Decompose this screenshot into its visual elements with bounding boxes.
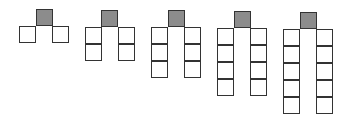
left-column-square [217,79,234,96]
left-column-square [283,29,300,46]
right-column-square [118,27,135,44]
right-column-square [250,45,267,62]
right-column-square [250,28,267,45]
left-column-square [85,44,102,61]
right-column-square [316,63,333,80]
shaded-square [101,10,118,27]
pattern-sequence-diagram [0,0,349,120]
left-column-square [283,46,300,63]
left-column-square [19,26,36,43]
right-column-square [52,26,69,43]
left-column-square [217,28,234,45]
right-column-square [316,29,333,46]
right-column-square [316,97,333,114]
right-column-square [184,27,201,44]
shaded-square [234,11,251,28]
right-column-square [250,79,267,96]
right-column-square [184,61,201,78]
left-column-square [217,45,234,62]
left-column-square [151,27,168,44]
right-column-square [250,62,267,79]
left-column-square [217,62,234,79]
shaded-square [168,10,185,27]
right-column-square [316,46,333,63]
left-column-square [85,27,102,44]
left-column-square [151,61,168,78]
shaded-square [300,12,317,29]
right-column-square [316,80,333,97]
left-column-square [283,80,300,97]
shaded-square [36,9,53,26]
right-column-square [118,44,135,61]
left-column-square [283,97,300,114]
left-column-square [283,63,300,80]
left-column-square [151,44,168,61]
right-column-square [184,44,201,61]
